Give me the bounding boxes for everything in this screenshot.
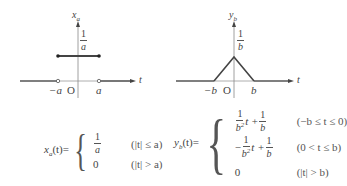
left-x-arrow-icon bbox=[130, 79, 136, 83]
right-y-axis-label: yb bbox=[229, 9, 237, 23]
left-tick-origin: O bbox=[67, 84, 75, 96]
left-open-circle-neg bbox=[56, 79, 59, 82]
left-open-circle-pos bbox=[97, 79, 100, 82]
left-y-axis-label: xa bbox=[72, 9, 80, 23]
left-tick-neg: −a bbox=[49, 84, 62, 96]
right-x-arrow-icon bbox=[288, 79, 294, 83]
eq-left-case-1: 1a (|t| ≤ a) bbox=[93, 132, 162, 155]
equation-right: yb(t)= { 1b2 t + 1b (−b ≤ t ≤ 0) − 1b2 t… bbox=[174, 109, 347, 178]
left-tick-pos: a bbox=[96, 84, 102, 96]
left-figure bbox=[20, 21, 136, 98]
eq-left-brace: { bbox=[74, 129, 87, 173]
eq-right-brace: { bbox=[207, 109, 227, 177]
equation-left: xa(t)= { 1a (|t| ≤ a) 0 (|t| > a) bbox=[44, 129, 162, 173]
eq-right-cases: 1b2 t + 1b (−b ≤ t ≤ 0) − 1b2 t + 1b (0 … bbox=[235, 109, 347, 178]
right-figure bbox=[176, 21, 294, 98]
eq-left-cases: 1a (|t| ≤ a) 0 (|t| > a) bbox=[93, 132, 162, 170]
eq-left-case-2: 0 (|t| > a) bbox=[93, 158, 162, 170]
left-pulse-endpoint-right bbox=[97, 54, 101, 58]
eq-right-case-3: 0 (|t| > b) bbox=[235, 166, 347, 178]
right-x-axis-label: t bbox=[297, 74, 300, 85]
right-height-label: 1b bbox=[236, 29, 245, 52]
eq-right-case-1: 1b2 t + 1b (−b ≤ t ≤ 0) bbox=[235, 109, 347, 133]
left-x-axis-label: t bbox=[139, 74, 142, 85]
eq-right-case-2: − 1b2 t + 1b (0 < t ≤ b) bbox=[235, 135, 347, 159]
left-pulse-endpoint-left bbox=[56, 54, 60, 58]
eq-left-lhs: xa(t)= bbox=[44, 143, 69, 158]
left-height-label: 1a bbox=[79, 29, 88, 52]
right-tick-pos: b bbox=[251, 84, 257, 96]
right-tick-origin: O bbox=[223, 84, 231, 96]
right-tick-neg: −b bbox=[204, 84, 217, 96]
eq-right-lhs: yb(t)= bbox=[174, 136, 199, 151]
